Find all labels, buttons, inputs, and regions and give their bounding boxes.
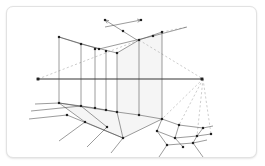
dashed-line-5: [203, 79, 211, 134]
construction-point-5: [105, 50, 107, 52]
solid-line-44: [175, 138, 183, 147]
construction-point-24: [178, 124, 180, 126]
construction-point-22: [156, 130, 158, 132]
screenshot-root: [0, 0, 265, 166]
dashed-line-2: [162, 79, 203, 119]
solid-line-49: [193, 143, 203, 157]
solid-line-31: [111, 138, 123, 153]
construction-point-19: [106, 126, 108, 128]
solid-line-23: [29, 115, 67, 119]
construction-point-11: [58, 102, 60, 104]
shaded-regions: [59, 32, 162, 138]
solid-line-4: [59, 37, 81, 44]
solid-line-33: [59, 122, 85, 141]
solid-line-35: [179, 125, 203, 128]
solid-line-21: [35, 103, 59, 104]
solid-line-46: [193, 140, 207, 143]
solid-line-48: [159, 145, 167, 157]
direction-arrows: [105, 19, 141, 40]
solid-line-32: [87, 127, 107, 147]
construction-point-8: [161, 31, 163, 33]
construction-point-16: [138, 114, 140, 116]
construction-point-15: [116, 111, 118, 113]
construction-point-13: [94, 107, 96, 109]
construction-point-20: [66, 114, 68, 116]
construction-point-32: [140, 19, 142, 21]
solid-line-3: [153, 27, 187, 36]
construction-point-18: [84, 121, 86, 123]
arrow-up-left: [105, 20, 137, 40]
solid-line-39: [175, 125, 179, 138]
solid-line-38: [175, 136, 197, 138]
left-vanishing-point: [37, 78, 40, 81]
construction-point-14: [105, 109, 107, 111]
dashed-line-3: [179, 79, 203, 125]
right-vanishing-point: [201, 78, 204, 81]
solid-line-45: [197, 134, 211, 136]
solid-line-34: [162, 119, 179, 125]
construction-point-28: [192, 142, 194, 144]
construction-point-29: [210, 133, 212, 135]
construction-point-7: [138, 39, 140, 41]
construction-point-2: [58, 36, 60, 38]
construction-point-30: [182, 146, 184, 148]
ground-plane: [59, 103, 123, 138]
construction-point-25: [196, 135, 198, 137]
construction-point-27: [166, 144, 168, 146]
construction-point-21: [122, 137, 124, 139]
construction-point-3: [80, 43, 82, 45]
construction-point-17: [161, 118, 163, 120]
far-wall-panel: [139, 32, 162, 119]
construction-point-4: [94, 48, 96, 50]
solid-line-47: [203, 126, 213, 128]
construction-point-6: [116, 52, 118, 54]
construction-point-26: [202, 127, 204, 129]
construction-point-31: [104, 19, 106, 21]
construction-point-9: [98, 48, 100, 50]
perspective-diagram: [7, 7, 256, 157]
diagram-card: [6, 6, 257, 158]
construction-point-23: [174, 137, 176, 139]
construction-point-33: [122, 30, 124, 32]
construction-point-10: [152, 35, 154, 37]
construction-point-12: [80, 105, 82, 107]
